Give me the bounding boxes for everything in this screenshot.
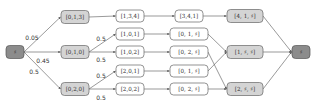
node-terminal: ♯ xyxy=(6,46,24,59)
edge-arrow xyxy=(89,16,116,17)
node-plain: [1,0,2] xyxy=(116,46,144,58)
node-plain: [2,0,2] xyxy=(116,83,144,95)
node-label: [0,1,3] xyxy=(66,14,85,20)
node-plain: [1,3,4] xyxy=(116,10,144,22)
node-label: [3,4,1] xyxy=(180,13,199,19)
node-label: [4, 1, ♯] xyxy=(234,13,255,19)
node-label: [2, ♯, ♯] xyxy=(235,86,255,92)
nodes: ♯[0,1,3][0,1,0][0,2,0][1,3,4][1,0,1][1,0… xyxy=(6,10,310,96)
node-intermediate: [0,2,0] xyxy=(61,83,89,96)
node-plain: [3,4,1] xyxy=(175,10,203,22)
edge-arrow xyxy=(208,52,227,89)
node-label: [1,0,2] xyxy=(121,49,140,55)
node-plain: [1,0,1] xyxy=(116,28,144,40)
node-plain: [0, 1, ♯] xyxy=(170,65,208,77)
node-label: [0, 1, ♯] xyxy=(178,68,199,74)
node-intermediate: [4, 1, ♯] xyxy=(227,10,263,23)
node-label: ♯ xyxy=(300,49,303,55)
edge-arrow xyxy=(208,52,227,71)
node-intermediate: [2, ♯, ♯] xyxy=(227,83,263,96)
edge-probability-label: 0.05 xyxy=(25,34,39,41)
probability-tree-diagram: ♯[0,1,3][0,1,0][0,2,0][1,3,4][1,0,1][1,0… xyxy=(0,0,320,107)
edge-probability-label: 0.5 xyxy=(96,94,106,101)
node-plain: [2,0,1] xyxy=(116,65,144,77)
edge-arrow xyxy=(263,16,292,52)
edge-probability-label: 0.5 xyxy=(29,68,39,75)
node-label: ♯ xyxy=(14,49,17,55)
node-label: [0, 2, ♯] xyxy=(178,49,199,55)
node-intermediate: [0,1,3] xyxy=(61,11,89,24)
node-plain: [0, 2, ♯] xyxy=(170,83,208,95)
node-label: [0, 2, ♯] xyxy=(178,86,199,92)
edge-probability-label: 0.5 xyxy=(96,72,106,79)
node-label: [2,0,1] xyxy=(121,68,140,74)
edge-arrow xyxy=(263,52,292,89)
node-label: [0,1,0] xyxy=(66,49,85,55)
node-label: [1, ♯, ♯] xyxy=(235,49,255,55)
node-label: [0,2,0] xyxy=(66,86,85,92)
node-plain: [0, 2, ♯] xyxy=(170,46,208,58)
node-plain: [0, 1, ♯] xyxy=(170,28,208,40)
edge-probability-label: 0.45 xyxy=(36,57,50,64)
node-terminal: ♯ xyxy=(292,46,310,59)
node-label: [1,0,1] xyxy=(121,31,140,37)
node-label: [0, 1, ♯] xyxy=(178,31,199,37)
edge-probability-label: 0.5 xyxy=(96,35,106,42)
node-intermediate: [0,1,0] xyxy=(61,46,89,59)
edge-probability-label: 0.5 xyxy=(96,56,106,63)
node-intermediate: [1, ♯, ♯] xyxy=(227,46,263,59)
node-label: [2,0,2] xyxy=(121,86,140,92)
edge-arrow xyxy=(208,34,227,52)
node-label: [1,3,4] xyxy=(121,13,140,19)
